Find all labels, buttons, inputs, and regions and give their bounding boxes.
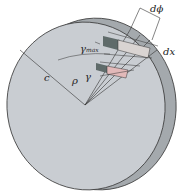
radius-c-label: c: [44, 73, 50, 83]
max-subscript: max: [86, 46, 99, 53]
gamma-max-label: γmax: [80, 44, 99, 54]
rho-label: ρ: [72, 76, 78, 86]
dphi-label: dϕ: [150, 4, 163, 14]
shaft-torsion-diagram: dϕ dx γmax c ρ γ: [0, 0, 184, 194]
shaft-disk-graphic: [0, 0, 184, 194]
dx-label: dx: [163, 47, 175, 57]
gamma-label: γ: [85, 72, 91, 82]
